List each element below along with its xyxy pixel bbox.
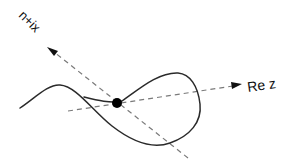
re-z-arrowhead-icon [231, 82, 242, 89]
re-z-axis-label: Re z [246, 75, 277, 95]
intersection-point [112, 98, 122, 108]
diagram-canvas: n+ix Re z [0, 0, 294, 164]
n-ix-axis-label: n+ix [16, 8, 44, 36]
curve-path [20, 73, 200, 145]
n-ix-arrowhead-icon [47, 47, 58, 56]
